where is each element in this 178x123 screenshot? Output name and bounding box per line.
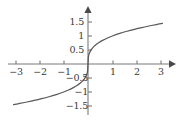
- x-tick-label-1: 1: [110, 67, 116, 77]
- cube-root-function-graph: −3 −2 −1 1 2 3 1.5 1 0.5 −0.5 −1 −1.5: [0, 0, 178, 123]
- x-tick-label--3: −3: [9, 67, 23, 77]
- x-tick-label--2: −2: [33, 67, 47, 77]
- plot-canvas: [0, 0, 178, 123]
- y-tick-label-1.5: 1.5: [69, 17, 84, 27]
- y-tick-label--1.5: −1.5: [66, 101, 88, 111]
- x-tick-label-2: 2: [134, 67, 140, 77]
- y-tick-label--1: −1: [74, 87, 88, 97]
- y-tick-label-1: 1: [78, 31, 84, 41]
- y-axis-arrowhead: [84, 6, 91, 13]
- x-tick-label-3: 3: [158, 67, 164, 77]
- y-tick-label-0.5: 0.5: [69, 45, 84, 55]
- x-axis-arrowhead: [169, 60, 176, 67]
- y-tick-label--0.5: −0.5: [66, 73, 88, 83]
